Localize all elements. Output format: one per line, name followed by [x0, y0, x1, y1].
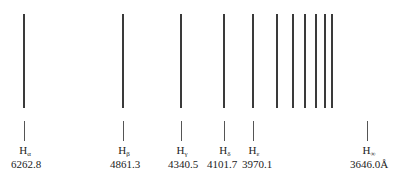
label-h-gamma: Hγ: [176, 144, 187, 158]
label-h-beta: Hβ: [118, 144, 130, 158]
spectral-line-h-epsilon: [252, 14, 254, 108]
tick-h-delta: [224, 121, 225, 141]
tick-h-beta: [123, 121, 124, 141]
tick-h-infinity: [367, 121, 368, 141]
spectral-line-8: [304, 14, 306, 108]
tick-h-alpha: [24, 121, 25, 141]
label-h-infinity: H∞: [363, 144, 376, 158]
wavelength-h-infinity: 3646.0Å: [350, 158, 388, 170]
spectral-line-6: [276, 14, 278, 108]
label-h-delta: Hδ: [219, 144, 230, 158]
spectral-line-h-beta: [122, 14, 124, 108]
spectral-line-10: [324, 14, 326, 108]
wavelength-h-beta: 4861.3: [110, 158, 140, 170]
tick-h-epsilon: [253, 121, 254, 141]
wavelength-h-epsilon: 3970.1: [242, 158, 272, 170]
spectral-line-h-alpha: [23, 14, 25, 108]
wavelength-h-delta: 4101.7: [207, 158, 237, 170]
spectral-line-9: [315, 14, 317, 108]
tick-h-gamma: [181, 121, 182, 141]
wavelength-h-gamma: 4340.5: [168, 158, 198, 170]
spectral-line-11: [331, 14, 333, 108]
label-h-alpha: Hα: [19, 144, 31, 158]
label-h-epsilon: Hε: [249, 144, 260, 158]
spectral-line-h-delta: [223, 14, 225, 108]
spectral-line-h-gamma: [180, 14, 182, 108]
spectral-line-7: [292, 14, 294, 108]
wavelength-h-alpha: 6262.8: [11, 158, 41, 170]
